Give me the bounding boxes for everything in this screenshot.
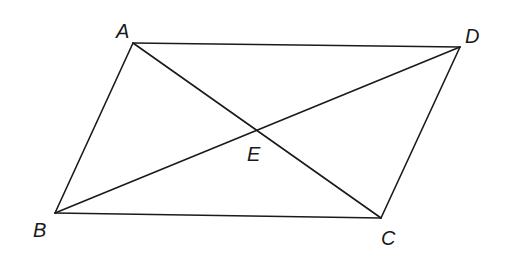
label-e: E <box>247 143 261 165</box>
side-ba <box>55 43 133 213</box>
side-ad <box>133 43 460 47</box>
parallelogram-diagram: A D B C E <box>0 0 506 255</box>
label-c: C <box>381 227 396 249</box>
label-d: D <box>465 25 479 47</box>
label-b: B <box>33 219 46 241</box>
label-a: A <box>115 20 129 42</box>
side-dc <box>381 47 460 218</box>
diagonal-bd <box>55 47 460 213</box>
side-cb <box>55 213 381 218</box>
